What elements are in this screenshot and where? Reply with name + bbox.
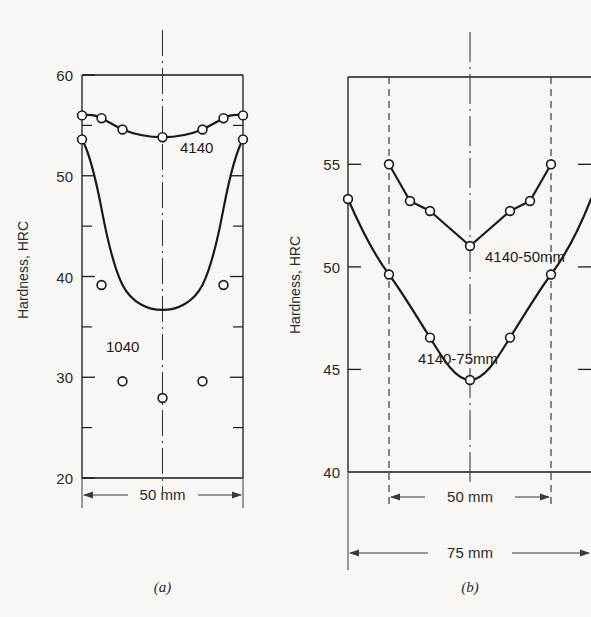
panel-a-ytick-60: 60 xyxy=(56,67,73,84)
panel-a-label-1040: 1040 xyxy=(106,338,139,355)
panel-b-ytick-40: 40 xyxy=(323,464,340,481)
panel-b-ytick-50: 50 xyxy=(323,259,340,276)
panel-b-label-4140-upper: 4140-50mm xyxy=(485,248,565,265)
panel-a-y-axis-label: Hardness, HRC xyxy=(15,221,31,319)
figure-page: 60 50 40 30 20 Hardness, HRC 4140 xyxy=(0,0,591,617)
hardness-profile-figure: 60 50 40 30 20 Hardness, HRC 4140 xyxy=(0,0,591,617)
caption-b: (b) xyxy=(461,579,479,596)
panel-a-dim-label: 50 mm xyxy=(140,486,186,503)
panel-b-ytick-45: 45 xyxy=(323,361,340,378)
panel-a-ytick-30: 30 xyxy=(56,369,73,386)
panel-a-ytick-20: 20 xyxy=(56,470,73,487)
panel-a-ytick-40: 40 xyxy=(56,269,73,286)
panel-a-ytick-50: 50 xyxy=(56,168,73,185)
panel-b-ytick-55: 55 xyxy=(323,156,340,173)
panel-a-label-4140: 4140 xyxy=(180,139,213,156)
panel-b-y-axis-label: Hardness, HRC xyxy=(287,236,303,334)
panel-b-label-4140-lower: 4140-75mm xyxy=(418,350,498,367)
panel-b-dim-75mm-label: 75 mm xyxy=(447,544,493,561)
panel-b-dim-50mm-label: 50 mm xyxy=(447,488,493,505)
caption-a: (a) xyxy=(154,579,172,596)
